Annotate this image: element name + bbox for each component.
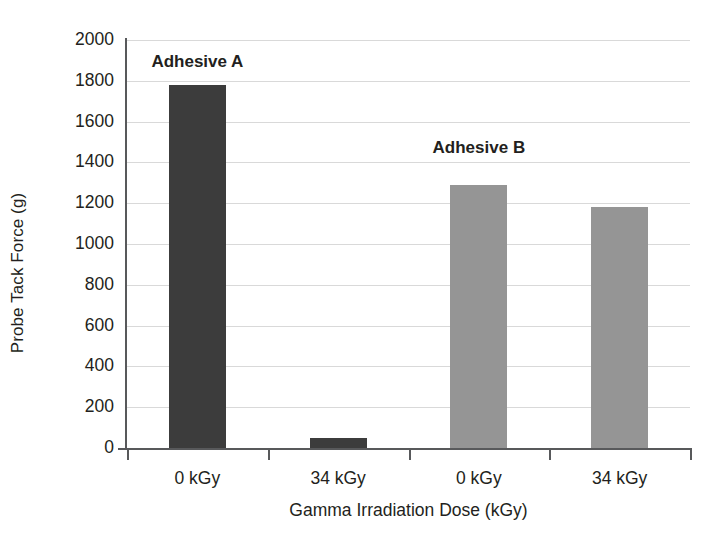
- x-axis-tick-label: 0 kGy: [175, 468, 221, 489]
- y-axis-tick-label: 1000: [36, 235, 114, 253]
- y-axis-tick-label: 200: [36, 398, 114, 416]
- x-axis-tick-label: 34 kGy: [310, 468, 365, 489]
- bar: [591, 207, 648, 448]
- x-axis-tick: [127, 448, 129, 460]
- y-axis-line: [125, 38, 127, 450]
- x-axis-tick: [409, 448, 411, 460]
- x-axis-tick: [549, 448, 551, 460]
- y-axis-tick-label: 1400: [36, 154, 114, 172]
- y-axis-tick-label: 600: [36, 317, 114, 335]
- y-axis-tick-label: 0: [36, 439, 114, 457]
- x-axis-tick: [268, 448, 270, 460]
- y-axis-tick-label: 2000: [36, 31, 114, 49]
- gridline: [127, 40, 690, 41]
- y-axis-tick-label: 1600: [36, 113, 114, 131]
- y-axis-tick-label: 400: [36, 358, 114, 376]
- gridline: [127, 81, 690, 82]
- y-axis-tick-label: 800: [36, 276, 114, 294]
- y-axis-tick-label: 1800: [36, 72, 114, 90]
- y-axis-title: Probe Tack Force (g): [0, 0, 36, 546]
- bar: [450, 185, 507, 448]
- group-annotation: Adhesive A: [151, 52, 243, 72]
- bar: [310, 438, 367, 448]
- x-axis-title: Gamma Irradiation Dose (kGy): [127, 500, 690, 521]
- y-axis-zero-tick: [118, 448, 126, 450]
- y-axis-tick-label: 1200: [36, 194, 114, 212]
- y-axis-tick-labels: 0200400600800100012001400160018002000: [36, 0, 114, 546]
- plot-area: [127, 40, 690, 448]
- group-annotation: Adhesive B: [433, 138, 526, 158]
- x-axis-tick-label: 34 kGy: [592, 468, 647, 489]
- x-axis-tick: [690, 448, 692, 460]
- bar-chart: Probe Tack Force (g) 0200400600800100012…: [0, 0, 708, 546]
- bar: [169, 85, 226, 448]
- x-axis-tick-label: 0 kGy: [456, 468, 502, 489]
